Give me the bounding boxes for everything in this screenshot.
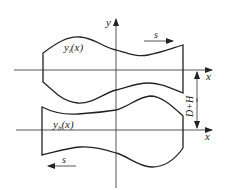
lower-motion-label: s (62, 154, 66, 165)
dimension-label: D+H (184, 95, 195, 118)
lower-x-axis-label: x (204, 130, 210, 142)
y-axis-label: y (105, 16, 111, 28)
lower-profile-label: yb(x) (52, 118, 74, 132)
upper-x-axis-label: x (205, 70, 211, 82)
upper-motion-label: s (154, 29, 158, 40)
diagram-canvas: y x x yt(x) yb(x) s s D+H (0, 0, 227, 190)
upper-profile-label: yt(x) (63, 41, 83, 55)
